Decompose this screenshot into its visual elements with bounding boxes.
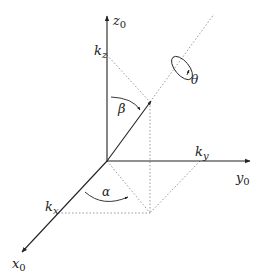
z-axis-label: z0: [112, 13, 126, 30]
ky-to-projection-line: [150, 161, 200, 213]
kx-label: kx: [45, 199, 59, 216]
coordinate-frame-diagram: z0 y0 x0 kz ky kx β α θ: [0, 0, 259, 272]
alpha-label: α: [102, 185, 110, 199]
ky-label: ky: [195, 144, 209, 161]
kz-label: kz: [94, 43, 108, 60]
beta-label: β: [117, 101, 126, 116]
k-vector: [107, 101, 151, 161]
x-axis: [22, 161, 107, 252]
angle-arcs: [85, 53, 196, 202]
origin-to-projection-line: [107, 161, 150, 213]
rotation-axis-line: [150, 14, 214, 102]
theta-arrow: [187, 70, 189, 75]
kz-to-tip-line: [107, 55, 150, 102]
axes: [22, 16, 250, 252]
theta-label: θ: [191, 73, 199, 87]
x-axis-label: x0: [12, 256, 26, 272]
dotted-construction-lines: [58, 14, 214, 213]
y-axis-label: y0: [235, 170, 250, 187]
